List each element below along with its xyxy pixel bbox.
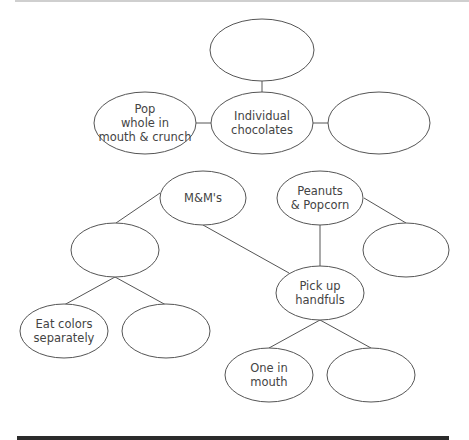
node-eat-colors-sibling-blank xyxy=(122,304,210,358)
node-top-blank xyxy=(210,19,314,81)
node-pick-up-handfuls xyxy=(276,266,364,320)
node-peanuts-child-blank xyxy=(363,223,449,277)
connector-line xyxy=(115,277,166,305)
node-mms xyxy=(160,171,246,225)
concept-map xyxy=(0,0,469,440)
node-peanuts-popcorn xyxy=(277,171,363,225)
node-one-in-mouth xyxy=(225,348,313,402)
connector-line xyxy=(203,225,289,273)
connector-line xyxy=(364,198,406,223)
bottom-rule xyxy=(17,436,449,440)
node-eat-colors xyxy=(20,304,108,358)
connector-line xyxy=(269,320,320,348)
node-mms-child-blank xyxy=(71,223,159,277)
node-pop-whole xyxy=(94,92,196,154)
node-right-blank xyxy=(328,92,430,154)
node-one-in-mouth-sibling-blank xyxy=(327,348,415,402)
node-individual-chocolates xyxy=(211,92,313,154)
connector-line xyxy=(320,320,371,348)
connector-line xyxy=(64,277,115,305)
connector-line xyxy=(116,193,160,223)
